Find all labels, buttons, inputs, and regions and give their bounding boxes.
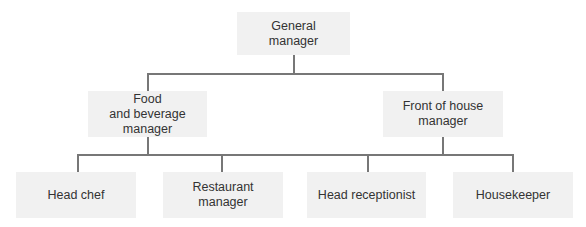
node-label-line: manager — [269, 34, 318, 49]
node-label-line: Housekeeper — [476, 188, 550, 203]
connector-to-housekeeper — [512, 154, 514, 172]
connector-level2-horizontal — [77, 154, 513, 156]
connector-to-food-beverage — [147, 73, 149, 91]
node-label-line: General — [269, 19, 318, 34]
node-head-receptionist: Head receptionist — [307, 172, 426, 218]
node-label-line: Front of house — [403, 99, 484, 114]
connector-food-beverage-stem — [147, 137, 149, 154]
node-label-line: Food — [109, 92, 185, 107]
node-front-of-house-manager: Front of house manager — [383, 91, 503, 137]
connector-gm-stem — [293, 55, 295, 73]
node-label-line: Head receptionist — [318, 188, 415, 203]
node-label-line: and beverage — [109, 107, 185, 122]
node-label-line: Head chef — [48, 188, 105, 203]
connector-to-restaurant-manager — [221, 154, 223, 172]
node-label-line: Restaurant — [192, 180, 253, 195]
node-label-line: manager — [403, 114, 484, 129]
node-housekeeper: Housekeeper — [453, 172, 573, 218]
node-label-line: manager — [109, 122, 185, 137]
connector-to-head-chef — [77, 154, 79, 172]
node-general-manager: General manager — [237, 12, 350, 55]
connector-to-front-of-house — [442, 73, 444, 91]
connector-level1-horizontal — [147, 73, 443, 75]
node-head-chef: Head chef — [16, 172, 136, 218]
node-restaurant-manager: Restaurant manager — [163, 172, 283, 218]
connector-front-of-house-stem — [442, 137, 444, 154]
connector-to-head-receptionist — [367, 154, 369, 172]
node-label-line: manager — [192, 195, 253, 210]
node-food-beverage-manager: Food and beverage manager — [88, 91, 207, 137]
